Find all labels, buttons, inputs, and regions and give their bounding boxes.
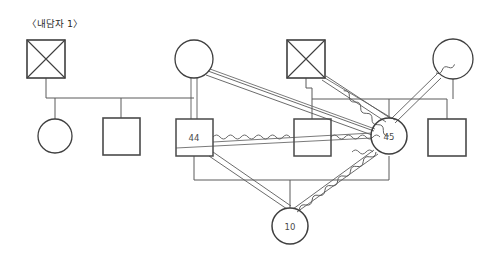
node-label-44: 44	[189, 133, 200, 143]
diagram-title: 〈내담자 1〉	[27, 18, 83, 29]
node-label-45: 45	[384, 132, 395, 142]
node-label-10: 10	[285, 222, 296, 232]
genogram-canvas: 〈내담자 1〉	[0, 0, 501, 259]
diagram-background	[0, 0, 501, 259]
genogram-diagram: 〈내담자 1〉	[0, 0, 501, 259]
